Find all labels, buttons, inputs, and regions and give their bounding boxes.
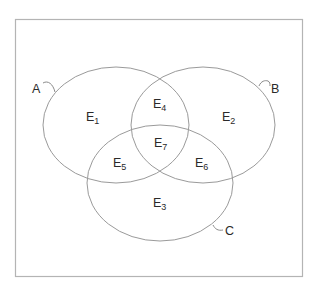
region-e5-label: E5 — [113, 156, 126, 172]
region-e1-label: E1 — [86, 110, 99, 126]
set-c-leader — [213, 225, 223, 230]
set-a-leader — [43, 82, 55, 92]
set-c-label: C — [225, 224, 234, 238]
region-e6-label: E6 — [195, 156, 208, 172]
set-a-label: A — [32, 82, 41, 96]
region-e2-label: E2 — [222, 110, 235, 126]
set-b-label: B — [271, 82, 279, 96]
region-e7-label: E7 — [154, 136, 167, 152]
set-b-leader — [259, 81, 270, 86]
region-e3-label: E3 — [153, 196, 166, 212]
region-e4-label: E4 — [153, 97, 166, 113]
venn-diagram: A B C E1 E2 E3 E4 E5 E6 E7 — [0, 0, 319, 293]
